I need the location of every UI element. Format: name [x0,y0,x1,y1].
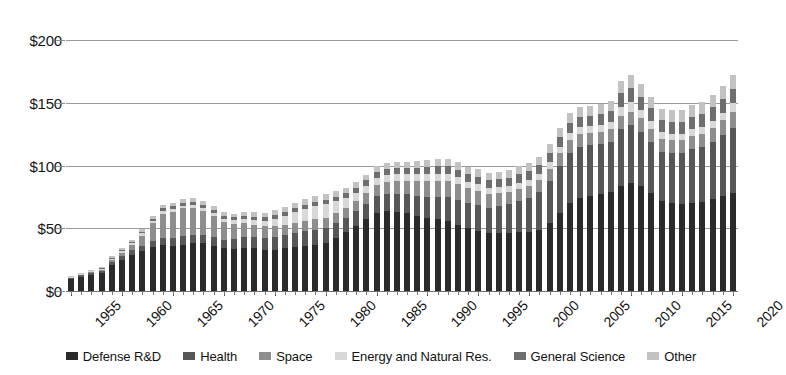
bar-segment [648,129,654,142]
bar-column[interactable] [455,162,461,291]
bar-column[interactable] [628,75,634,291]
bar-segment [374,185,380,196]
bar-column[interactable] [333,191,339,291]
bar-segment [669,134,675,141]
bar-column[interactable] [353,182,359,291]
bar-column[interactable] [262,213,268,291]
bar-column[interactable] [282,207,288,291]
bar-column[interactable] [598,104,604,291]
bar-column[interactable] [374,166,380,291]
legend-swatch-icon [66,352,78,360]
bar-column[interactable] [68,276,74,291]
bar-column[interactable] [689,105,695,291]
bar-segment [445,197,451,221]
bar-column[interactable] [465,167,471,291]
bar-column[interactable] [567,113,573,291]
bar-column[interactable] [170,203,176,291]
legend-item[interactable]: Defense R&D [66,350,161,363]
bar-column[interactable] [638,84,644,291]
bar-column[interactable] [648,97,654,291]
bar-segment [119,260,125,291]
bar-column[interactable] [414,161,420,291]
bar-column[interactable] [129,240,135,291]
bar-column[interactable] [536,157,542,291]
bar-column[interactable] [180,199,186,291]
bar-segment [516,201,522,232]
bar-column[interactable] [200,201,206,291]
bar-column[interactable] [577,107,583,291]
bar-segment [139,251,145,291]
bar-column[interactable] [88,270,94,291]
bar-segment [608,129,614,142]
bar-column[interactable] [435,159,441,291]
bar-column[interactable] [251,212,257,291]
bar-segment [598,114,604,125]
bar-column[interactable] [119,248,125,291]
bar-segment [241,237,247,248]
bar-segment [150,247,156,291]
x-axis-minor-tick [265,292,266,295]
bar-column[interactable] [384,163,390,291]
bar-column[interactable] [312,196,318,291]
bar-column[interactable] [363,175,369,291]
bar-column[interactable] [679,110,685,291]
bar-column[interactable] [231,214,237,291]
bar-column[interactable] [659,109,665,291]
bar-segment [272,250,278,291]
x-axis-minor-tick [529,292,530,295]
bar-column[interactable] [272,210,278,291]
bar-column[interactable] [424,160,430,291]
bar-column[interactable] [618,81,624,291]
bar-column[interactable] [241,212,247,291]
bar-column[interactable] [190,198,196,291]
bar-column[interactable] [78,273,84,291]
bar-column[interactable] [557,128,563,291]
bar-column[interactable] [109,256,115,291]
bar-column[interactable] [302,199,308,291]
bar-column[interactable] [404,162,410,291]
bar-column[interactable] [486,173,492,291]
bar-column[interactable] [160,205,166,291]
bar-column[interactable] [211,206,217,291]
legend-item[interactable]: Health [183,350,237,363]
bar-column[interactable] [587,106,593,291]
bar-column[interactable] [323,194,329,291]
bar-column[interactable] [139,229,145,291]
bar-segment [547,144,553,153]
bar-column[interactable] [669,110,675,291]
bar-column[interactable] [710,95,716,291]
bar-segment [190,208,196,234]
bar-column[interactable] [394,162,400,291]
bar-column[interactable] [292,203,298,291]
bar-column[interactable] [343,188,349,291]
bar-column[interactable] [730,75,736,291]
bar-segment [262,250,268,291]
bar-column[interactable] [150,216,156,291]
bar-column[interactable] [221,212,227,291]
bar-column[interactable] [720,86,726,291]
legend-item[interactable]: Energy and Natural Res. [335,350,492,363]
bar-segment [343,218,349,232]
bar-segment [282,235,288,248]
bar-column[interactable] [699,102,705,291]
bar-segment [638,186,644,291]
bar-column[interactable] [526,163,532,291]
legend-item[interactable]: Other [647,350,696,363]
legend-item[interactable]: Space [259,350,312,363]
bar-column[interactable] [608,101,614,291]
legend-item[interactable]: General Science [514,350,626,363]
bar-segment [333,223,339,238]
bar-column[interactable] [506,170,512,291]
bar-column[interactable] [496,172,502,291]
bar-column[interactable] [445,159,451,291]
bar-segment [710,128,716,142]
bar-column[interactable] [475,169,481,291]
bar-segment [679,153,685,204]
bar-segment [577,107,583,117]
bar-column[interactable] [99,267,105,291]
bar-segment [577,198,583,291]
bar-column[interactable] [516,166,522,291]
bar-column[interactable] [547,144,553,291]
bar-segment [547,153,553,162]
